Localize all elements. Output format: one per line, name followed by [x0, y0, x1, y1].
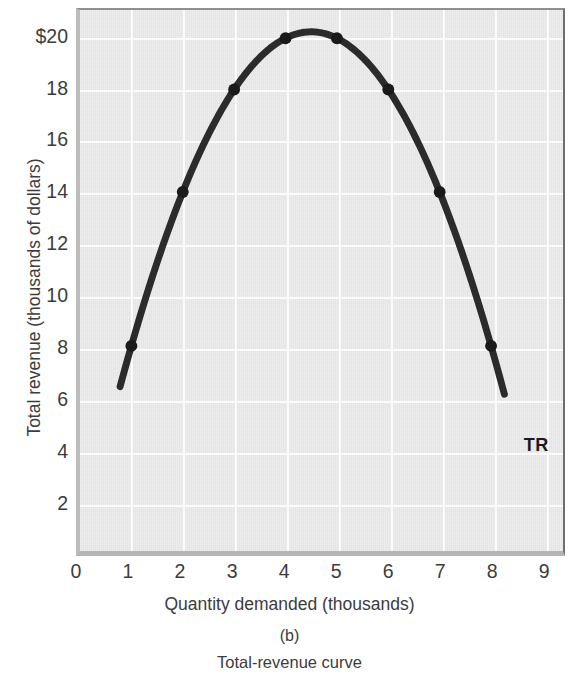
x-tick-label: 6	[368, 562, 408, 582]
panel-label: (b)	[0, 627, 579, 645]
x-axis-tick-labels: 0123456789	[0, 0, 579, 674]
x-tick-label: 9	[524, 562, 564, 582]
x-tick-label: 4	[264, 562, 304, 582]
x-tick-label: 7	[420, 562, 460, 582]
x-tick-label: 5	[316, 562, 356, 582]
x-tick-label: 3	[212, 562, 252, 582]
x-tick-label: 0	[56, 562, 96, 582]
figure-title: Total-revenue curve	[0, 653, 579, 672]
total-revenue-chart-figure: Total revenue (thousands of dollars) 246…	[0, 0, 579, 674]
x-axis-title: Quantity demanded (thousands)	[0, 594, 579, 615]
x-tick-label: 8	[472, 562, 512, 582]
x-tick-label: 1	[108, 562, 148, 582]
x-tick-label: 2	[160, 562, 200, 582]
